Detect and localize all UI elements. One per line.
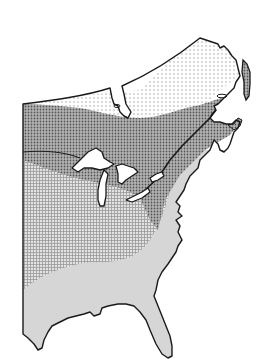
map-svg: [0, 0, 280, 364]
shading-zones: [0, 0, 280, 364]
newfoundland: [242, 60, 250, 100]
range-map: [0, 0, 280, 364]
